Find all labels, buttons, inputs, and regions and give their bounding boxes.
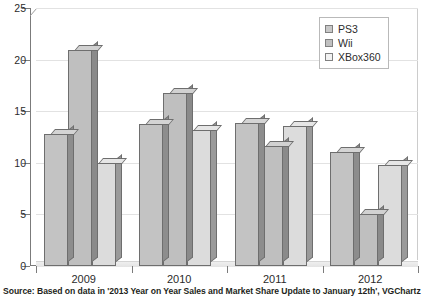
bar-ps3-2012 (330, 152, 354, 266)
gridline-25 (36, 8, 418, 9)
legend-swatch-icon-ps3 (325, 25, 333, 33)
bar-side-face (354, 144, 360, 262)
bar-side-face (163, 115, 169, 262)
bar-ps3-2010 (139, 124, 163, 266)
legend-item-xbox360[interactable]: XBox360 (325, 50, 381, 64)
bar-front-face (139, 124, 163, 266)
bar-side-face (283, 138, 289, 262)
bar-side-face (307, 117, 313, 262)
legend-item-ps3[interactable]: PS3 (325, 22, 381, 36)
plot-frame-right-rule (417, 8, 418, 260)
x-tick-label-2011: 2011 (245, 274, 305, 285)
x-tick-2012 (418, 266, 419, 273)
bar-side-face (116, 154, 122, 262)
y-tick-label-15: 15 (2, 106, 26, 117)
y-tick-label-0: 0 (2, 261, 26, 272)
bar-front-face (235, 123, 259, 266)
bar-front-face (44, 134, 68, 266)
x-tick-origin (36, 266, 37, 273)
plot-depth-corner (30, 8, 38, 16)
legend-label-wii: Wii (338, 38, 353, 49)
y-tick-label-20: 20 (2, 55, 26, 66)
legend-swatch-icon-xbox360 (325, 53, 333, 61)
legend-label-xbox360: XBox360 (338, 52, 381, 63)
y-tick-label-10: 10 (2, 158, 26, 169)
legend-label-ps3: PS3 (338, 24, 358, 35)
legend-item-wii[interactable]: Wii (325, 36, 381, 50)
bar-side-face (187, 84, 193, 262)
bar-side-face (92, 42, 98, 262)
bar-front-face (330, 152, 354, 266)
chart-legend: PS3 Wii XBox360 (319, 17, 389, 69)
bar-side-face (211, 121, 217, 262)
y-tick-label-25: 25 (2, 3, 26, 14)
source-note: Source: Based on data in '2013 Year on Y… (3, 286, 421, 296)
bar-chart: 0510152025 2009201020112012 PS3 Wii XBox… (0, 0, 424, 299)
bar-ps3-2009 (44, 134, 68, 266)
x-tick-label-2010: 2010 (149, 274, 209, 285)
bar-ps3-2011 (235, 123, 259, 266)
x-tick-2010 (227, 266, 228, 273)
x-tick-label-2012: 2012 (340, 274, 400, 285)
bar-side-face (259, 114, 265, 262)
bar-side-face (402, 156, 408, 262)
x-tick-label-2009: 2009 (54, 274, 114, 285)
y-tick-label-5: 5 (2, 209, 26, 220)
x-tick-2009 (132, 266, 133, 273)
x-tick-2011 (323, 266, 324, 273)
legend-swatch-icon-wii (325, 39, 333, 47)
bar-side-face (68, 125, 74, 262)
